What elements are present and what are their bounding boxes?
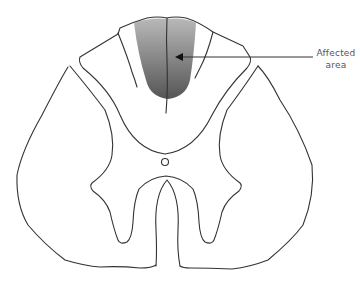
anterior-median-fissure xyxy=(156,180,180,266)
right-column-divider xyxy=(195,32,213,78)
central-canal xyxy=(162,159,169,166)
left-lateral-outline xyxy=(17,67,156,268)
affected-area-label: Affected area xyxy=(313,47,359,71)
label-line-2: area xyxy=(313,59,359,71)
affected-area-shading xyxy=(134,19,196,100)
spinal-cord-diagram xyxy=(0,0,360,283)
left-column-divider xyxy=(118,33,137,87)
label-line-1: Affected xyxy=(313,47,359,59)
right-lateral-outline xyxy=(180,66,313,269)
